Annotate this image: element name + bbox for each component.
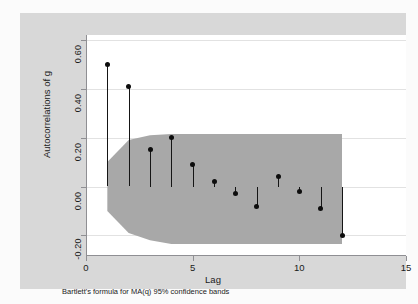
data-point-marker <box>126 84 131 89</box>
x-axis-tick-label: 5 <box>181 262 205 273</box>
x-axis-tick <box>406 256 407 261</box>
data-point-marker <box>340 233 345 238</box>
y-axis-tick-label-text: 0.20 <box>73 137 83 167</box>
data-point-marker <box>212 179 217 184</box>
data-stem <box>193 165 194 187</box>
y-axis-tick-label-text: 0.60 <box>73 39 83 69</box>
x-axis-tick <box>193 256 194 261</box>
y-axis-tick-label-text: -0.20 <box>73 234 83 264</box>
data-point-marker <box>276 174 281 179</box>
x-axis-tick-label: 10 <box>287 262 311 273</box>
data-point-marker <box>169 135 174 140</box>
data-stem <box>342 187 343 236</box>
x-axis-title: Lag <box>20 274 406 285</box>
data-point-marker <box>254 204 259 209</box>
data-stem <box>150 150 151 187</box>
data-stem <box>129 86 130 186</box>
x-axis-tick <box>86 256 87 261</box>
y-axis-tick-label-text: 0.00 <box>73 186 83 216</box>
y-axis-line <box>86 35 87 255</box>
data-stem <box>107 64 108 186</box>
data-point-marker <box>148 147 153 152</box>
confidence-band <box>86 35 406 255</box>
plot-area <box>86 35 406 255</box>
data-point-marker <box>105 62 110 67</box>
x-axis-tick <box>299 256 300 261</box>
acf-plot-screenshot: -0.200.000.200.400.60 051015 Autocorrela… <box>0 0 418 304</box>
y-axis-tick-label: 0.00 <box>46 181 78 193</box>
data-point-marker <box>297 189 302 194</box>
confidence-band-note: Bartlett's formula for MA(q) 95% confide… <box>62 287 229 296</box>
y-axis-tick-label: 0.60 <box>46 34 78 46</box>
y-axis-tick-label: -0.20 <box>46 229 78 241</box>
y-axis-title: Autocorrelations of g <box>41 65 52 165</box>
data-stem <box>171 138 172 187</box>
graph-region: -0.200.000.200.400.60 051015 Autocorrela… <box>20 13 406 289</box>
y-axis-tick-label-text: 0.40 <box>73 88 83 118</box>
x-axis-line <box>86 255 406 256</box>
x-axis-tick-label: 15 <box>394 262 418 273</box>
x-axis-tick-label: 0 <box>74 262 98 273</box>
